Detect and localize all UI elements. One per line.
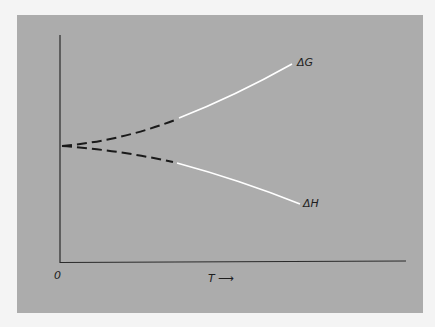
delta-g-solid (179, 64, 292, 118)
x-axis-label: T ⟶ (208, 273, 234, 284)
delta-g-dashed (62, 120, 175, 146)
delta-g-label: ΔG (297, 57, 313, 68)
delta-h-label: ΔH (303, 198, 319, 209)
delta-h-solid (177, 163, 300, 204)
origin-label: 0 (54, 270, 61, 281)
x-axis (60, 261, 406, 263)
delta-h-dashed (62, 146, 173, 162)
